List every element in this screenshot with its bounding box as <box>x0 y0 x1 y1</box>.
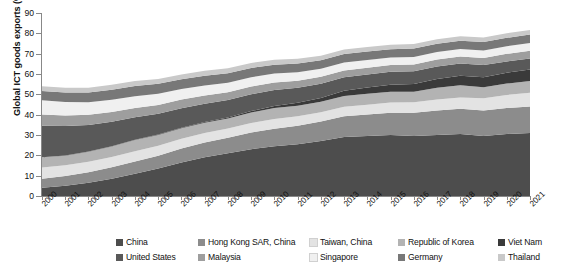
y-axis-tick <box>36 94 41 95</box>
y-axis-tick <box>36 176 41 177</box>
y-axis-tick <box>36 155 41 156</box>
legend-swatch-icon <box>198 239 205 246</box>
legend-swatch-icon <box>498 239 505 246</box>
y-axis-tick <box>36 13 41 14</box>
legend-swatch-icon <box>398 239 405 246</box>
y-axis-tick-label: 10 <box>4 172 34 180</box>
chart-legend: ChinaHong Kong SAR, ChinaTaiwan, ChinaRe… <box>116 236 556 264</box>
scan-speckle <box>0 0 570 8</box>
legend-swatch-icon <box>116 239 123 246</box>
y-axis-tick <box>36 196 41 197</box>
legend-label: Germany <box>408 253 442 262</box>
legend-label: Republic of Korea <box>408 238 474 247</box>
y-axis-tick-label: 0 <box>4 192 34 200</box>
y-axis-tick <box>36 54 41 55</box>
legend-item[interactable]: Thailand <box>498 251 556 264</box>
x-axis-tick-label: 2021 <box>528 190 547 209</box>
legend-swatch-icon <box>310 254 317 261</box>
plot-area <box>42 13 530 196</box>
legend-label: Singapore <box>320 253 358 262</box>
y-axis-tick-label: 90 <box>4 9 34 17</box>
legend-label: Hong Kong SAR, China <box>208 238 295 247</box>
y-axis-tick <box>36 135 41 136</box>
legend-label: Thailand <box>508 253 540 262</box>
legend-item[interactable]: United States <box>116 251 198 264</box>
legend-item[interactable]: Taiwan, China <box>310 236 398 249</box>
legend-item[interactable]: Hong Kong SAR, China <box>198 236 310 249</box>
legend-item[interactable]: Republic of Korea <box>398 236 498 249</box>
y-axis-tick-label: 70 <box>4 50 34 58</box>
legend-label: Viet Nam <box>508 238 542 247</box>
legend-swatch-icon <box>310 239 317 246</box>
legend-label: Malaysia <box>208 253 241 262</box>
stacked-area-svg <box>42 13 530 196</box>
legend-item[interactable]: Malaysia <box>198 251 310 264</box>
y-axis-tick-label: 80 <box>4 29 34 37</box>
legend-swatch-icon <box>198 254 205 261</box>
legend-label: United States <box>126 253 176 262</box>
legend-swatch-icon <box>498 254 505 261</box>
legend-label: Taiwan, China <box>320 238 372 247</box>
legend-item[interactable]: Germany <box>398 251 498 264</box>
legend-item[interactable]: China <box>116 236 198 249</box>
y-axis-tick <box>36 74 41 75</box>
y-axis-tick-label: 50 <box>4 90 34 98</box>
chart-figure: Global ICT goods exports (%) 01020304050… <box>0 0 570 273</box>
y-axis-tick-label: 20 <box>4 151 34 159</box>
y-axis-tick-label: 40 <box>4 111 34 119</box>
y-axis-tick-label: 30 <box>4 131 34 139</box>
y-axis-tick-label: 60 <box>4 70 34 78</box>
legend-swatch-icon <box>116 254 123 261</box>
y-axis-tick-labels: 0102030405060708090 <box>0 0 34 210</box>
legend-swatch-icon <box>398 254 405 261</box>
y-axis-tick <box>36 33 41 34</box>
legend-label: China <box>126 238 148 247</box>
legend-item[interactable]: Viet Nam <box>498 236 556 249</box>
y-axis-tick <box>36 115 41 116</box>
legend-item[interactable]: Singapore <box>310 251 398 264</box>
